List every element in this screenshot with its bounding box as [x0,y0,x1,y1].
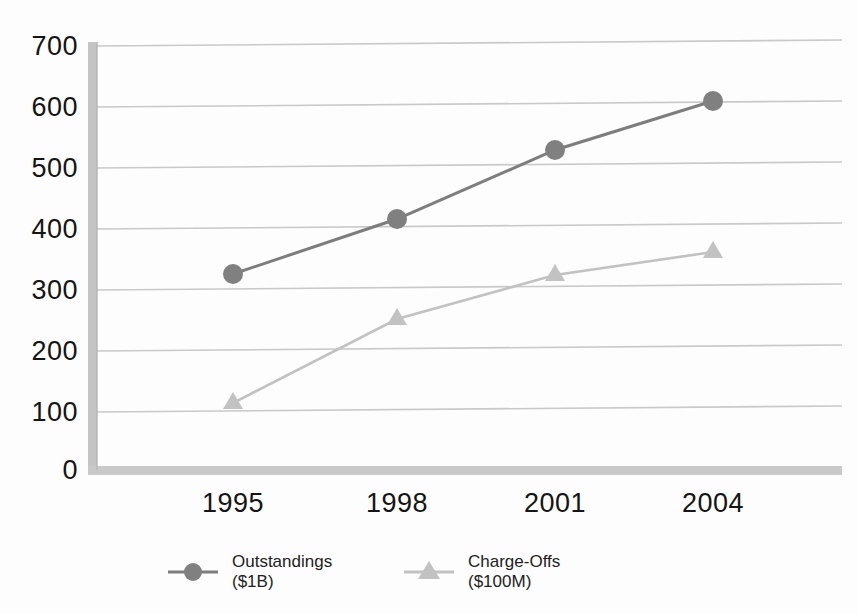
chart-canvas [0,0,858,614]
series-charge-offs-line [233,252,713,403]
series-charge-offs-marker-2001 [545,264,565,281]
y-tick-700: 700 [0,31,78,62]
legend-item-charge-offs-name: Charge-Offs [468,552,560,571]
y-tick-500: 500 [0,153,78,184]
series-outstandings-line [233,101,713,274]
y-tick-300: 300 [0,275,78,306]
series-outstandings-marker-1995 [223,264,243,284]
gridline-600 [96,101,842,107]
gridline-100 [96,406,842,412]
legend-marker-charge-offs-icon [418,561,440,579]
legend-item-charge-offs: Charge-Offs ($100M) [468,552,560,592]
gridline-300 [96,284,842,290]
x-tick-2004: 2004 [653,488,773,519]
legend-item-outstandings-name: Outstandings [232,552,332,571]
series-charge-offs [223,241,723,409]
legend-item-outstandings-unit: ($1B) [232,572,332,592]
gridline-400 [96,223,842,229]
gridlines [96,40,842,412]
x-tick-2001: 2001 [495,488,615,519]
legend-item-charge-offs-unit: ($100M) [468,572,560,592]
y-tick-100: 100 [0,397,78,428]
y-tick-600: 600 [0,92,78,123]
series-charge-offs-marker-2004 [703,241,723,258]
series-outstandings-marker-1998 [387,209,407,229]
x-tick-1998: 1998 [337,488,457,519]
gridline-700 [96,40,842,46]
legend-item-outstandings: Outstandings ($1B) [232,552,332,592]
series-outstandings [223,91,723,284]
legend-marker-outstandings-icon [184,563,202,581]
series-outstandings-marker-2004 [703,91,723,111]
y-tick-200: 200 [0,336,78,367]
gridline-200 [96,345,842,351]
y-axis-spine [88,42,97,474]
gridline-500 [96,162,842,168]
series-outstandings-marker-2001 [545,140,565,160]
x-axis-spine [88,466,842,475]
line-chart: 700 600 500 400 300 200 100 0 1995 1998 … [0,0,858,614]
x-tick-1995: 1995 [173,488,293,519]
y-tick-0: 0 [0,455,78,486]
y-tick-400: 400 [0,214,78,245]
